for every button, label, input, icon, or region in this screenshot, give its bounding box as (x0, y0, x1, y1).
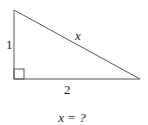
right-triangle (14, 10, 140, 79)
triangle-diagram: 1 x 2 x = ? (0, 0, 148, 125)
horizontal-leg-label: 2 (64, 82, 71, 97)
right-angle-marker (14, 69, 24, 79)
hypotenuse-label: x (74, 28, 81, 43)
question-label: x = ? (57, 110, 86, 125)
vertical-leg-label: 1 (6, 37, 13, 52)
